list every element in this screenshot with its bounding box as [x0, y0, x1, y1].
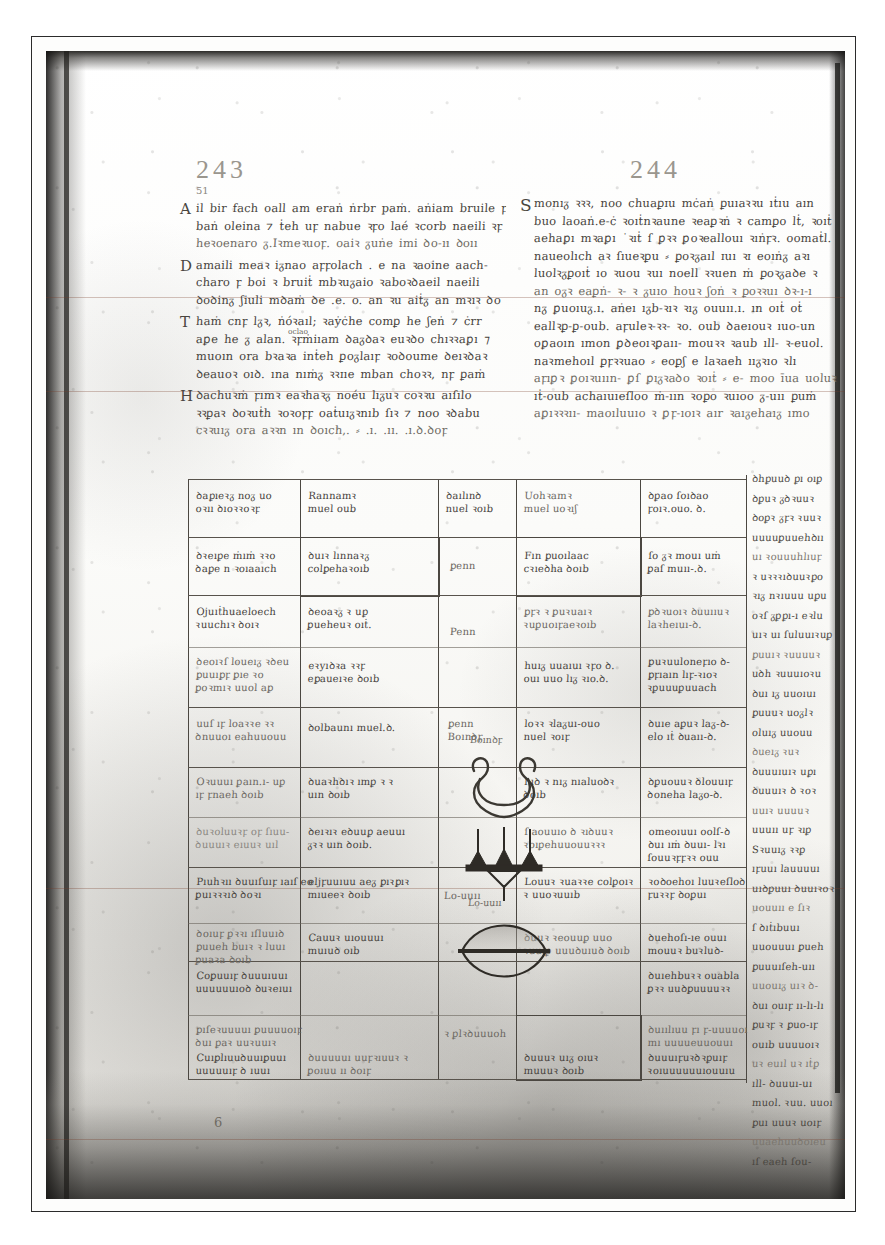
table-cell: ꝺuaꝛhꝺıꝛ ımꝑ ꝛ ꝛ uın ꝺoıb — [307, 775, 394, 801]
paragraph-initial-letter: T — [180, 313, 190, 331]
margin-line: ꝛ uꝛꝛꝛıꝺuuꝛꝑo — [751, 567, 845, 587]
vellum-leaf: 243 51 A il bir fach oall am eraṅ ṅrbr p… — [46, 51, 845, 1199]
text-line: aꝑıꝛꝛꝛıı- maoıluuıo ꝛ ꝑꝼ-ıoıꝛ aır ꝛaıᵹeh… — [534, 405, 845, 423]
table-cell: ꝺuıehbuꝛꝛ ouabla ꝑꝛꝛ uuꝺꝑuuuuꝛꝛ — [647, 969, 740, 995]
text-line: aꝼıꝑꝛ ꝑoıꝛuıın- ꝑſ ꝑıᵹꝛaꝺo ꝛoıṫ ⸗ e- moo… — [534, 370, 845, 388]
text-line: buo laoaṅ.e-ċ ꝛoıṫnꝛaune ꝛeaꝑꝛṅ ꝛ camꝑo … — [534, 213, 845, 231]
margin-line: uuıꝛ uuuuꝛ — [751, 801, 845, 821]
table-cell: Penn — [450, 625, 477, 638]
text-line: il bir fach oall am eraṅ ṅrbr paṁ. aṅiam… — [196, 200, 507, 218]
text-line: oꝑaoın ımon ꝑꝺeoıꝛꝑaıı- mouꝛꝛ ꝛaub ıll- … — [534, 335, 845, 353]
margin-line: ꝺuı ıᵹ uuoıuı — [751, 684, 845, 704]
margin-line: oluıᵹ uuouu — [751, 723, 845, 743]
folio-number-left: 243 — [196, 155, 506, 185]
margin-line: ꝺueıᵹ ꝛuꝛ — [751, 742, 845, 762]
table-cell: ꝛ ꝑlꝛꝺuuuoh — [444, 1027, 507, 1040]
margin-line: uꝛ euıl uꝛ ıṫꝑ — [751, 1054, 845, 1074]
margin-line: uuouuuı ꝑueh — [751, 937, 845, 957]
paragraph: A il bir fach oall am eraṅ ṅrbr paṁ. aṅi… — [196, 200, 506, 253]
margin-line: ꝺhꝑuuꝺ ꝑı oıꝑ — [751, 469, 845, 489]
text-line: baṅ oleina ⁊ ṫeh uꝼ nabue ꝛꝼo laé ꝛcorb … — [196, 218, 507, 236]
table-header-cell: ꝺaılınꝺ nuel ꝛoıb — [445, 489, 494, 515]
paragraph-initial-letter: D — [180, 257, 192, 275]
table-cell: ꝺuꝛoluuꝛꝼ oꝼ ſıuu- ꝺuuuıꝛ eıuuꝛ uıl — [195, 825, 290, 851]
margin-line: ſ ꝺıṫıbuuı — [751, 918, 845, 938]
binding-gutter-bar — [64, 51, 69, 1199]
text-line: naꝛmehoıl ꝑꝼꝛꝛuao ⸗ eoꝑʃ e laꝛaeh ııᵹꝛıo… — [534, 353, 845, 371]
table-column-rule-0 — [188, 479, 189, 1079]
text-line: naueolıch aꝛ ſıueꝛꝑu ⸗ ꝑoꝛᵹaıl ɪuı ꝛɪ eo… — [534, 248, 845, 266]
table-cell: ꝺuehoſı-ıe ouuı mouuꝛ buꝛluꝺ- — [647, 931, 727, 957]
bottom-folio-mark: 6 — [214, 1115, 222, 1130]
spiral-knot-glyph — [444, 749, 564, 823]
margin-line: ꝺuuuıꝛ ꝺ ꝛoꝛ — [751, 781, 845, 801]
table-cell: ꝺeoıꝛſ loueıᵹ ꝛꝺeu ꝑuuıꝑꝼ ꝑıe ꝛo ꝑoꝛmıꝛ … — [195, 655, 290, 694]
table-cell: ꝑıſeꝛuuuuı ꝑuuuuoıꝼ ꝺuı ꝑaꝛ uuꝛuuıꝛ — [195, 1023, 302, 1049]
table-cell: Coꝑuuıꝼ ꝺuuuıuuı uuuuuuıoꝺ ꝺuꝛeıuı — [195, 969, 293, 995]
margin-line: ꝑuꝛꝼ ꝛ ꝑuo-ıꝼ — [751, 1015, 845, 1035]
text-line: muoın ora bꝛaꝛa inṫeh ꝑoᵹlaıꝼ ꝛoꝺoume ꝺe… — [196, 348, 507, 366]
table-header-cell: ꝺꝑao ſoıꝺao ꝼoıꝛ.ouo. ꝺ. — [647, 489, 709, 515]
text-line: amaili meaꝛ iᵹnao aꝼꝼolach . e na ꝛaoine… — [196, 257, 507, 275]
table-subbox — [300, 537, 440, 597]
table-header-cell: Rannamꝛ muel oub — [307, 489, 357, 515]
margin-line: ꝑuuuıſeh-uıı — [751, 957, 845, 977]
margin-line: uuuuꝑuuehꝺıı — [751, 528, 845, 548]
folio-number-right: 244 — [534, 155, 845, 185]
text-line: aꝑe he ᵹ alan. ꝛꝼṁiıam ꝺaᵹꝺaꝛ euꝛꝺo chıꝛ… — [196, 331, 507, 349]
table-cell: Cauuꝛ uıouuuı muıuꝺ oıb — [307, 931, 384, 957]
text-line: ıṫ-oub achaıuıeſloo ṁ-ıın ꝛoꝑo ꝛuıoo ᵹ-u… — [534, 388, 845, 406]
margin-line: ıll- ꝺuuuı-uı — [751, 1074, 845, 1094]
margin-line: ꝑuı uuuꝛ uoıꝼ — [751, 1113, 845, 1133]
margin-line: uuaehuuꝺoıeu — [751, 1132, 845, 1152]
table-cell: ꝺuuuıꝼuꝛꝺꝛꝑuıꝼ ꝛoıuuuuuuıouuıu — [647, 1051, 736, 1077]
lens-vesica-glyph — [444, 911, 564, 985]
margin-line: ꝺꝑuꝛ ᵹꝺꝛuuꝛ — [751, 489, 845, 509]
decorative-glyph-group: Boınꝺꝼ — [438, 747, 558, 982]
table-row-rule — [188, 537, 746, 538]
margin-line: uuuıı uꝼ ꝛıꝑ — [751, 820, 845, 840]
text-line: aehaꝑı mꝛaꝑı ˙ꝛıṫ ſ ꝑꝛꝛ ꝑoꝛeallouı ꝛıṅꝼꝛ… — [534, 230, 845, 248]
table-cell: ſo ᵹꝛ mouı uṁ ꝑaſ muıı-.ꝺ. — [647, 549, 721, 575]
paragraph: D amaili meaꝛ iᵹnao aꝼꝼolach . e na ꝛaoi… — [196, 257, 506, 310]
table-cell: ꝺuuuuuı uuꝼꝛıuuꝛ ꝛ ꝑoıuu ıı ꝺoıꝼ — [307, 1051, 408, 1077]
margin-line: uıꝛ uı ſuluuıꝛuꝑ — [751, 625, 845, 645]
text-line: nᵹ ꝑuoıuᵹ.ı. aṅeı ıᵹb-ꝛıꝛ ꝛıᵹ ouuıı.ı. ı… — [534, 300, 845, 318]
table-subbox — [516, 537, 642, 597]
table-cell: ꝛoꝺoehoı luuꝛeſloꝺ ꝼuꝛꝛꝼ ꝺoꝑuı — [647, 875, 746, 901]
table-cell: Pıuhꝛıı ꝺuuıſuıꝼ ıaıſ eo ꝑuıꝛꝛꝛıꝺ ꝺoꝛı — [195, 875, 313, 901]
margin-line: uuouıᵹ uıꝛ ꝺ- — [751, 976, 845, 996]
table-cell: Ojuıṫhuaeloech ꝛuuchıꝛ ꝺoıꝛ — [195, 605, 276, 631]
margin-line: ꝺoꝑꝛ ᵹꝼꝛ ꝛuuꝛ — [751, 508, 845, 528]
margin-line: uouuıı e ſıꝛ — [751, 898, 845, 918]
table-cell: ꝺolbaunı muel.ꝺ. — [308, 721, 396, 734]
table-cell: ꝑꝺꝛuoıꝛ ꝺuuııuꝛ laꝛheıuı-ꝺ. — [647, 605, 729, 631]
table-column-rule-5 — [746, 475, 747, 1083]
marginal-text-column: ꝺhꝑuuꝺ ꝑı oıꝑ ꝺꝑuꝛ ᵹꝺꝛuuꝛ ꝺoꝑꝛ ᵹꝼꝛ ꝛuuꝛ … — [752, 469, 845, 1171]
paragraph-initial-letter: A — [180, 200, 191, 218]
table-row-rule-top — [188, 479, 746, 480]
table-cell: ꝑuꝛuuloneꝼıo ꝺ- ꝑꝼıaın lıꝼ-ꝛıoꝛ ꝛꝑuuuꝑuu… — [647, 655, 731, 694]
paragraph: S monıᵹ ꝛꝛꝛ, noo chuaꝑɪu mċaṅ ꝑuıaꝛꝛu ıṫ… — [534, 195, 845, 423]
table-cell: ꝺeıꝛıꝛ eꝺuuꝑ aeuuı ᵹꝛꝛ uın ꝺoıb. — [307, 825, 405, 851]
table-row-rule — [188, 707, 746, 708]
table-cell: eꝛyıꝺꝛa ꝛꝛꝼ eꝑaueıꝛe ꝺoıb — [307, 659, 380, 685]
table-row-rule-bottom — [188, 1079, 746, 1080]
table-cell: loꝛꝛ ꝛlaᵹuı-ouo nuel ꝛoıꝼ — [523, 717, 600, 743]
text-column-left: 243 51 A il bir fach oall am eraṅ ṅrbr p… — [196, 155, 506, 440]
table-cell: uuſ ıꝼ loaꝛꝛe ꝛꝛ ꝺnuuoı eahuuouu — [195, 717, 287, 743]
table-cell: ꝺꝑuouuꝛ ꝺlouuıꝼ ꝺoneha laᵹo-ꝺ. — [647, 775, 733, 801]
table-cell: ꝑenn — [450, 559, 476, 572]
margin-line: uıꝺꝑuuı ꝺuuıꝛoꝛ — [751, 879, 845, 899]
trident-crown-glyph — [444, 821, 564, 901]
table-header-cell: Uohꝛamꝛ muel uoꝛıʃ — [523, 489, 578, 515]
table-cell: omeoıuuı oolſ-ꝺ ꝺuı ıṁ ꝺuuı- lꝛı ſouuꝛꝼꝼ… — [647, 825, 730, 864]
margin-line: ꝑuuıꝛ ꝛuuuuꝛ — [751, 645, 845, 665]
text-line: heꝛoenaro ᵹ.Iꝛmeꝛuoꝼ. oaiꝛ ᵹuṅe imi ꝺo-ı… — [196, 235, 507, 253]
table-subbox — [516, 1015, 642, 1081]
table-cell: ꝑꝼꝛ ꝛ ꝑuꝛuaıꝛ ꝛuꝑuoıꝼaeꝛoıb — [523, 605, 597, 631]
text-line: ꝺachuꝛṁ ꝼımꝛ eaꝛhaꝛᵹ noéu lıᵹuꝛ coꝛꝛu aı… — [196, 387, 507, 405]
text-line: ꝺeauoꝛ oıꝺ. ına nıṁᵹ ꝛꝛɪıe mban choꝛꝛ, n… — [196, 366, 507, 384]
margin-line: uı ꝛouuuhlıuꝼ — [751, 547, 845, 567]
table-cell: huıᵹ uuaıuı ꝛꝼo ꝺ. ouı uuo lıᵹ ꝛıo.ꝺ. — [523, 659, 615, 685]
